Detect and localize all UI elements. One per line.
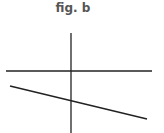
diagram-canvas bbox=[0, 0, 164, 133]
sloped-line bbox=[10, 86, 147, 119]
